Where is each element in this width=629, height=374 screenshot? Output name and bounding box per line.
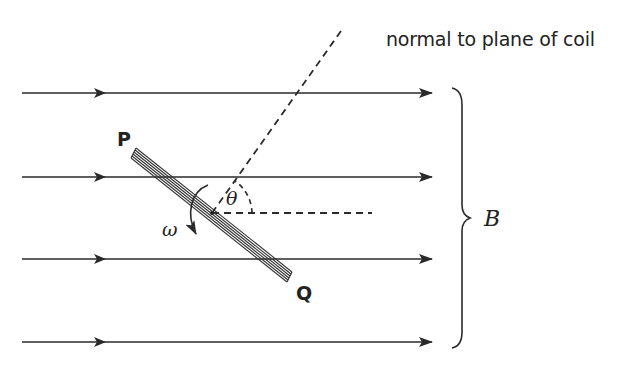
field-label: B — [484, 206, 500, 231]
coil-pq — [131, 148, 292, 282]
magnetic-field-lines — [22, 93, 432, 342]
field-brace — [452, 88, 470, 348]
angle-arc — [235, 181, 252, 213]
diagram-canvas — [0, 0, 629, 374]
end-p-label: P — [117, 128, 131, 150]
angular-velocity-label: ω — [162, 218, 178, 240]
normal-label: normal to plane of coil — [386, 28, 595, 50]
angle-label: θ — [226, 187, 237, 209]
end-q-label: Q — [296, 282, 312, 304]
normal-line — [212, 31, 341, 213]
pivot-point — [210, 211, 214, 215]
